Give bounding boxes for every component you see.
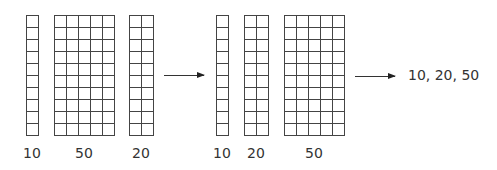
label-10-before: 10 (20, 145, 44, 161)
arrow-right-icon (355, 76, 395, 77)
label-10-after: 10 (210, 145, 234, 161)
label-20-before: 20 (127, 145, 155, 161)
block-10-after (216, 15, 229, 136)
block-50-after (284, 15, 345, 136)
label-50-before: 50 (70, 145, 98, 161)
result-text: 10, 20, 50 (408, 67, 479, 83)
label-50-after: 50 (300, 145, 328, 161)
block-10-before (26, 15, 39, 136)
arrow-right-icon (164, 75, 204, 76)
block-50-before (54, 15, 115, 136)
label-20-after: 20 (242, 145, 270, 161)
block-20-after (244, 15, 269, 136)
block-20-before (129, 15, 154, 136)
